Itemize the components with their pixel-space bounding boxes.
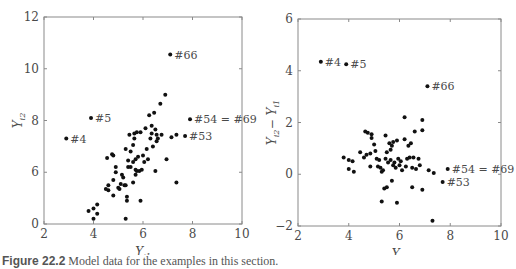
data-point (411, 155, 415, 159)
data-point (420, 128, 424, 132)
data-point (398, 163, 402, 167)
data-point (390, 144, 394, 148)
right-y-tick-label: −2 (275, 219, 293, 233)
right-point-annotation: #66 (431, 80, 454, 93)
data-point (351, 159, 355, 163)
data-point (89, 116, 93, 120)
data-point (111, 178, 115, 182)
right-x-tick-label: 2 (294, 229, 302, 243)
right-y-tick-label: 4 (285, 64, 293, 78)
data-point (156, 137, 160, 141)
right-y-axis-label: Yi2 − Yi1 (265, 100, 281, 145)
data-point (145, 147, 149, 151)
data-point (92, 206, 96, 210)
data-point (385, 185, 389, 189)
right-point-annotation: #4 (325, 56, 341, 69)
data-point (127, 133, 131, 137)
left-x-tick-label: 4 (90, 227, 98, 241)
data-point (126, 159, 130, 163)
data-point (140, 168, 144, 172)
data-point (169, 135, 173, 139)
data-point (319, 60, 323, 64)
data-point (95, 203, 99, 207)
data-point (420, 188, 424, 192)
right-x-axis-label: Yi1 (392, 247, 408, 255)
data-point (153, 169, 157, 173)
left-y-tick-label: 6 (31, 165, 39, 179)
data-point (409, 141, 413, 145)
left-y-tick-label: 12 (24, 10, 39, 24)
data-point (410, 166, 414, 170)
data-point (417, 157, 421, 161)
left-point-annotation: #54 = #69 (194, 113, 257, 126)
data-point (131, 143, 135, 147)
right-point-annotation: #53 (447, 176, 470, 189)
data-point (391, 140, 395, 144)
data-point (395, 201, 399, 205)
data-point (64, 137, 68, 141)
data-point (129, 150, 133, 154)
data-point (124, 147, 128, 151)
data-point (125, 199, 129, 203)
data-point (390, 179, 394, 183)
data-point (342, 155, 346, 159)
data-point (117, 187, 121, 191)
data-point (347, 158, 351, 162)
data-point (148, 137, 152, 141)
data-point (403, 115, 407, 119)
data-point (392, 161, 396, 165)
data-point (152, 111, 156, 115)
data-point (158, 102, 162, 106)
left-y-axis-label: Yi2 (11, 113, 27, 129)
data-point (106, 188, 110, 192)
data-point (377, 158, 381, 162)
right-x-tick-label: 6 (396, 229, 404, 243)
data-point (124, 217, 128, 221)
data-point (344, 62, 348, 66)
data-point (381, 168, 385, 172)
data-point (370, 136, 374, 140)
data-point (131, 181, 135, 185)
left-y-tick-label: 8 (31, 114, 39, 128)
left-point-annotation: #4 (70, 133, 86, 146)
data-point (165, 157, 169, 161)
data-point (347, 167, 351, 171)
data-point (163, 93, 167, 97)
right-x-tick-label: 4 (345, 229, 353, 243)
data-point (404, 164, 408, 168)
data-point (160, 133, 164, 137)
data-point (418, 163, 422, 167)
data-point (150, 131, 154, 135)
data-point (92, 217, 96, 221)
data-point (432, 171, 436, 175)
data-point (139, 130, 143, 134)
data-point (183, 134, 187, 138)
figure-caption-text: Model data for the examples in this sect… (68, 254, 278, 268)
data-point (121, 175, 125, 179)
data-point (134, 173, 138, 177)
data-point (414, 167, 418, 171)
data-point (403, 137, 407, 141)
data-point (136, 155, 140, 159)
data-point (430, 219, 434, 223)
right-data-points (319, 60, 450, 223)
data-point (352, 170, 356, 174)
data-point (408, 155, 412, 159)
data-point (106, 183, 110, 187)
left-x-tick-label: 8 (189, 227, 197, 241)
left-scatter-plot: 2468100681012#4#5#66#54 = #69#53Yi1 Yi2 (0, 0, 262, 255)
data-point (366, 131, 370, 135)
data-point (399, 159, 403, 163)
right-x-tick-label: 8 (446, 229, 454, 243)
right-plot-frame (298, 19, 501, 226)
data-point (155, 133, 159, 137)
data-point (168, 53, 172, 57)
data-point (410, 185, 414, 189)
data-point (87, 209, 91, 213)
left-x-tick-label: 10 (234, 227, 249, 241)
data-point (151, 144, 155, 148)
data-point (139, 199, 143, 203)
data-point (135, 130, 139, 134)
data-point (370, 132, 374, 136)
right-plot-canvas: 246810−20246#4#5#66#54 = #69#53Yi1 Yi2 −… (262, 0, 516, 255)
